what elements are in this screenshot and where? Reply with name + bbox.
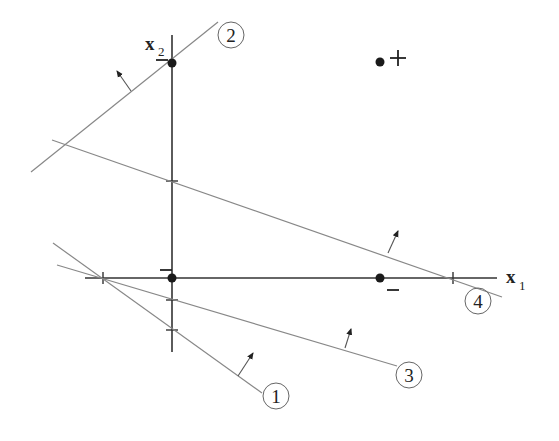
arrow-icon: [388, 231, 398, 253]
x2-label: x: [145, 33, 155, 54]
line-4: [52, 140, 502, 297]
line-3: [57, 265, 397, 366]
perceptron-diagram: x 2 x 1 2 4 3 1: [0, 0, 559, 441]
line-3-label: 3: [404, 365, 414, 386]
line-1: [53, 243, 262, 393]
line-2-label: 2: [226, 25, 236, 46]
decision-lines: [31, 22, 502, 393]
arrow-icon: [117, 71, 131, 91]
arrow-icon: [345, 329, 351, 348]
line-2: [31, 22, 218, 172]
positive-point: [376, 58, 385, 67]
top-point: [168, 59, 177, 68]
points: [156, 50, 406, 290]
arrow-icon: [238, 353, 253, 376]
normal-arrows: [117, 71, 398, 376]
axes: [85, 35, 497, 352]
x2-subscript: 2: [158, 44, 165, 59]
x1-label: x: [506, 266, 516, 287]
x1-subscript: 1: [519, 278, 526, 293]
line-4-label: 4: [473, 291, 483, 312]
origin-point: [168, 274, 177, 283]
line-labels: 2 4 3 1: [218, 22, 491, 409]
negative-point: [376, 274, 385, 283]
line-1-label: 1: [271, 386, 281, 407]
axis-labels: x 2 x 1: [145, 33, 526, 293]
